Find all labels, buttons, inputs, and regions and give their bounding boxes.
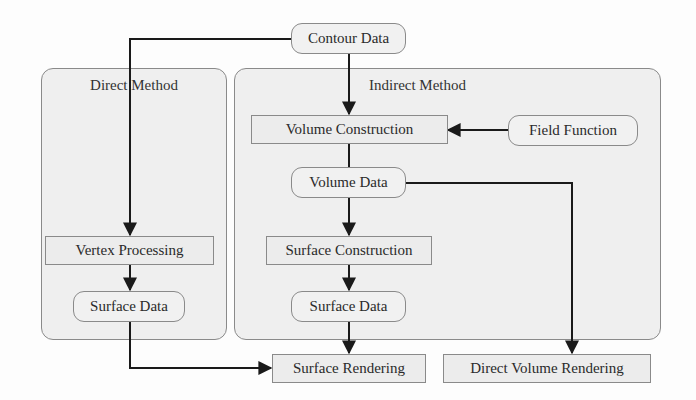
surface-data-direct-node: Surface Data (73, 291, 185, 322)
volume-construction-node: Volume Construction (251, 115, 448, 144)
field-function-label: Field Function (529, 122, 617, 139)
direct-volume-rendering-label: Direct Volume Rendering (470, 360, 624, 377)
volume-construction-label: Volume Construction (286, 121, 414, 138)
contour-data-node: Contour Data (291, 23, 406, 54)
surface-rendering-label: Surface Rendering (293, 360, 405, 377)
surface-data-direct-label: Surface Data (90, 298, 168, 315)
volume-data-label: Volume Data (309, 174, 387, 191)
indirect-method-title: Indirect Method (175, 77, 660, 94)
surface-rendering-node: Surface Rendering (272, 354, 426, 383)
contour-data-label: Contour Data (308, 30, 389, 47)
surface-data-indirect-label: Surface Data (310, 298, 388, 315)
surface-construction-label: Surface Construction (285, 242, 412, 259)
surface-construction-node: Surface Construction (266, 236, 432, 265)
vertex-processing-label: Vertex Processing (76, 242, 184, 259)
surface-data-indirect-node: Surface Data (291, 291, 406, 322)
field-function-node: Field Function (508, 115, 638, 146)
volume-data-node: Volume Data (291, 167, 406, 198)
vertex-processing-node: Vertex Processing (45, 236, 214, 265)
direct-volume-rendering-node: Direct Volume Rendering (443, 354, 651, 383)
